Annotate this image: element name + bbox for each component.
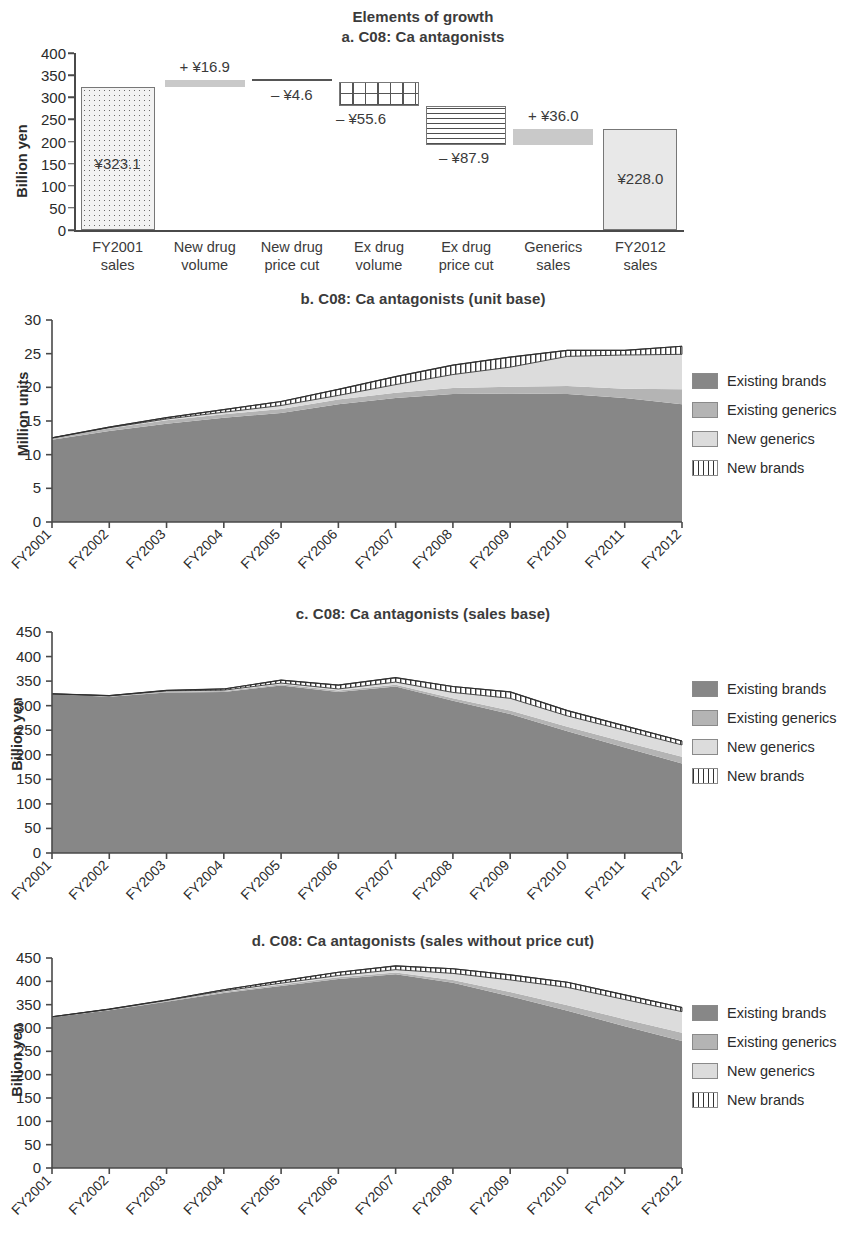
panel-a-ytick-label: 350 [0, 67, 66, 84]
legend-swatch-icon [692, 1034, 718, 1050]
panel-a-value-label: + ¥36.0 [493, 107, 613, 124]
legend-item-existing-generics: Existing generics [692, 1027, 837, 1056]
panel-a-category-label: Ex drugvolume [335, 238, 422, 274]
xtick-label: FY2003 [123, 857, 169, 903]
xtick-label: FY2010 [524, 1172, 570, 1218]
legend-swatch-icon [692, 1092, 718, 1108]
ytick-label: 400 [16, 972, 41, 989]
xtick-label: FY2008 [409, 526, 455, 572]
panel-a-category-label: FY2001sales [74, 238, 161, 274]
ytick-label: 400 [16, 648, 41, 665]
panel-d-title: d. C08: Ca antagonists (sales without pr… [0, 932, 846, 949]
panel-c-area-chart: Billion yen 050100150200250300350400450F… [0, 622, 846, 922]
legend-item-existing-brands: Existing brands [692, 674, 837, 703]
xtick-label: FY2007 [352, 1172, 398, 1218]
panel-a-category-label: Ex drugprice cut [423, 238, 510, 274]
area-series-existing-brands [52, 686, 682, 853]
panel-a-ytick-label: 250 [0, 111, 66, 128]
legend-item-new-brands: New brands [692, 1085, 837, 1114]
ytick-label: 0 [33, 844, 41, 861]
xtick-label: FY2010 [524, 857, 570, 903]
ytick-label: 30 [24, 311, 41, 328]
legend-item-new-generics: New generics [692, 424, 837, 453]
xtick-label: FY2007 [352, 857, 398, 903]
xtick-label: FY2005 [237, 526, 283, 572]
area-series-existing-brands [52, 393, 682, 522]
xtick-label: FY2012 [638, 1172, 684, 1218]
xtick-label: FY2012 [638, 526, 684, 572]
xtick-label: FY2011 [582, 526, 627, 571]
xtick-label: FY2001 [8, 857, 54, 903]
panel-a-category-label: FY2012sales [597, 238, 684, 274]
legend-swatch-icon [692, 768, 718, 784]
ytick-label: 0 [33, 513, 41, 530]
panel-c-ylabel: Billion yen [9, 669, 25, 799]
legend-swatch-icon [692, 1005, 718, 1021]
legend-swatch-icon [692, 1063, 718, 1079]
panel-a-value-label: ¥228.0 [580, 170, 700, 187]
legend-item-label: Existing generics [727, 402, 837, 418]
panel-a-value-label: – ¥87.9 [404, 149, 524, 166]
panel-a-bar [252, 79, 332, 81]
xtick-label: FY2010 [524, 526, 570, 572]
legend-item-label: Existing brands [727, 373, 826, 389]
xtick-label: FY2004 [180, 1172, 226, 1218]
xtick-label: FY2002 [65, 526, 111, 572]
legend-item-new-generics: New generics [692, 1056, 837, 1085]
panel-c-legend: Existing brandsExisting genericsNew gene… [692, 674, 837, 790]
legend-item-existing-generics: Existing generics [692, 395, 837, 424]
panel-a-ytick-label: 300 [0, 89, 66, 106]
legend-item-existing-brands: Existing brands [692, 998, 837, 1027]
legend-swatch-icon [692, 710, 718, 726]
xtick-label: FY2004 [180, 526, 226, 572]
xtick-label: FY2006 [294, 857, 340, 903]
panel-a-ytick-label: 200 [0, 133, 66, 150]
legend-swatch-icon [692, 681, 718, 697]
legend-item-label: Existing generics [727, 1034, 837, 1050]
legend-item-new-brands: New brands [692, 761, 837, 790]
xtick-label: FY2009 [466, 857, 512, 903]
panel-a-waterfall: Billion yen 050100150200250300350400 ¥32… [0, 45, 846, 280]
ytick-label: 50 [24, 1136, 41, 1153]
panel-a-y-axis-line [74, 53, 76, 231]
panel-b-area-chart: Million units 051015202530FY2001FY2002FY… [0, 310, 846, 595]
legend-item-label: Existing brands [727, 1005, 826, 1021]
xtick-label: FY2001 [8, 1172, 54, 1218]
legend-item-label: New generics [727, 739, 815, 755]
xtick-label: FY2004 [180, 857, 226, 903]
legend-swatch-icon [692, 402, 718, 418]
legend-item-new-generics: New generics [692, 732, 837, 761]
xtick-label: FY2005 [237, 1172, 283, 1218]
xtick-label: FY2006 [294, 1172, 340, 1218]
panel-d-ylabel: Billion yen [9, 995, 25, 1125]
legend-item-existing-generics: Existing generics [692, 703, 837, 732]
xtick-label: FY2005 [237, 857, 283, 903]
legend-item-existing-brands: Existing brands [692, 366, 837, 395]
panel-a-value-label: – ¥55.6 [301, 110, 421, 127]
xtick-label: FY2009 [466, 1172, 512, 1218]
ytick-label: 450 [16, 623, 41, 640]
ytick-label: 5 [33, 479, 41, 496]
xtick-label: FY2006 [294, 526, 340, 572]
xtick-label: FY2007 [352, 526, 398, 572]
xtick-label: FY2012 [638, 857, 684, 903]
xtick-label: FY2003 [123, 526, 169, 572]
panel-d-area-chart: Billion yen 050100150200250300350400450F… [0, 948, 846, 1238]
figure-main-title: Elements of growth [0, 8, 846, 25]
panel-a-ytick-label: 0 [0, 222, 66, 239]
legend-swatch-icon [692, 373, 718, 389]
legend-item-new-brands: New brands [692, 453, 837, 482]
panel-b-title: b. C08: Ca antagonists (unit base) [0, 290, 846, 307]
panel-a-value-label: + ¥16.9 [145, 58, 265, 75]
panel-c-title: c. C08: Ca antagonists (sales base) [0, 605, 846, 622]
legend-item-label: New generics [727, 1063, 815, 1079]
panel-a-bar [513, 129, 593, 145]
panel-a-x-axis-line [74, 230, 684, 232]
panel-d-legend: Existing brandsExisting genericsNew gene… [692, 998, 837, 1114]
legend-item-label: New generics [727, 431, 815, 447]
panel-b-ylabel: Million units [15, 349, 31, 479]
ytick-label: 50 [24, 819, 41, 836]
xtick-label: FY2002 [65, 1172, 111, 1218]
panel-a-ytick-label: 400 [0, 45, 66, 62]
xtick-label: FY2009 [466, 526, 512, 572]
